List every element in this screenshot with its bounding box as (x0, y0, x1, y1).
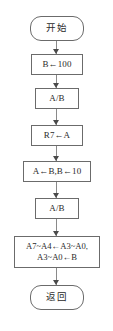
node-return[interactable]: 返回 (30, 285, 84, 310)
node-divide-ab-second[interactable]: A/B (35, 198, 79, 219)
node-pack-bcd-line2: A3~A0←B (26, 252, 88, 263)
node-return-label: 返回 (46, 292, 68, 303)
node-start[interactable]: 开始 (30, 16, 84, 41)
node-pack-bcd[interactable]: A7~A4←A3~A0, A3~A0←B (14, 236, 100, 268)
node-set-b-100[interactable]: B←100 (31, 54, 83, 75)
flowchart-canvas: 开始 B←100 A/B R7←A A←B,B←10 A/B A7~A4←A3~… (0, 0, 113, 331)
node-load-a-b-set-b-10-label: A←B,B←10 (33, 166, 82, 176)
node-store-r7[interactable]: R7←A (31, 125, 83, 146)
node-set-b-100-label: B←100 (42, 59, 71, 69)
node-start-label: 开始 (46, 23, 68, 34)
node-pack-bcd-line1: A7~A4←A3~A0, (26, 241, 88, 252)
node-divide-ab-first-label: A/B (49, 93, 64, 103)
node-divide-ab-first[interactable]: A/B (35, 88, 79, 109)
node-pack-bcd-text: A7~A4←A3~A0, A3~A0←B (26, 241, 88, 262)
node-load-a-b-set-b-10[interactable]: A←B,B←10 (23, 161, 91, 182)
node-store-r7-label: R7←A (44, 130, 70, 140)
node-divide-ab-second-label: A/B (49, 203, 64, 213)
